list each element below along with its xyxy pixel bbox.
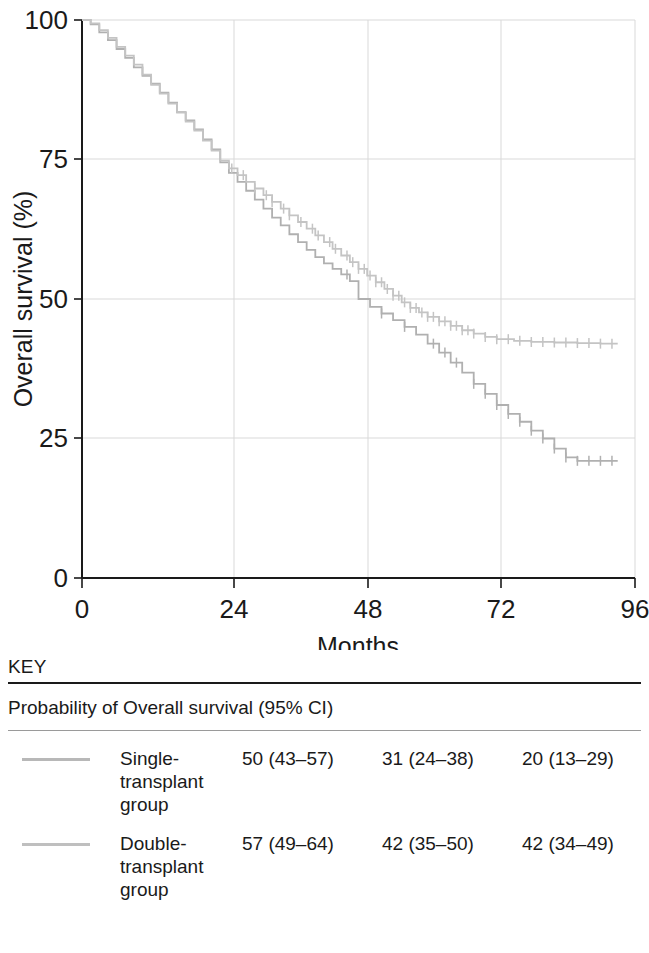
key-value-single-72m: 20 (13–29) (522, 747, 649, 770)
key-value-double-24m: 57 (49–64) (242, 832, 382, 855)
survival-curve-double (82, 20, 618, 344)
survival-curve-single (82, 20, 618, 461)
y-tick-label-25: 25 (39, 423, 68, 453)
x-tick-label-0: 0 (75, 594, 89, 624)
key-row-double-transplant: Double- transplant group 57 (49–64) 42 (… (8, 816, 641, 901)
chart-axes (74, 20, 635, 588)
key-value-single-24m: 50 (43–57) (242, 747, 382, 770)
key-title: KEY (8, 655, 641, 682)
survival-curves (82, 20, 618, 466)
line-swatch-icon-double (22, 843, 90, 846)
key-group-label-single-line2: transplant (120, 770, 242, 793)
y-tick-label-100: 100 (25, 5, 68, 35)
y-tick-label-50: 50 (39, 284, 68, 314)
x-tick-label-72: 72 (487, 594, 516, 624)
survival-chart-figure: 100 75 50 25 0 0 24 48 72 96 Months Over… (0, 0, 649, 650)
key-value-double-48m: 42 (35–50) (382, 832, 522, 855)
key-value-single-48m: 31 (24–38) (382, 747, 522, 770)
x-tick-label-24: 24 (220, 594, 249, 624)
x-tick-label-96: 96 (621, 594, 649, 624)
key-swatch-cell-single (8, 747, 120, 761)
key-group-label-single-line3: group (120, 793, 242, 816)
y-tick-label-75: 75 (39, 144, 68, 174)
key-group-label-single-line1: Single- (120, 747, 242, 770)
key-legend-block: KEY Probability of Overall survival (95%… (8, 655, 641, 901)
key-group-label-double-line2: transplant (120, 855, 242, 878)
x-tick-label-48: 48 (354, 594, 383, 624)
key-group-label-single: Single- transplant group (120, 747, 242, 816)
key-group-label-double-line1: Double- (120, 832, 242, 855)
censor-marks-double (232, 163, 612, 348)
key-swatch-cell-double (8, 832, 120, 846)
key-value-double-72m: 42 (34–49) (522, 832, 649, 855)
key-group-label-double-line3: group (120, 878, 242, 901)
line-swatch-icon-single (22, 758, 90, 761)
y-tick-label-0: 0 (54, 563, 68, 593)
key-group-label-double: Double- transplant group (120, 832, 242, 901)
key-row-single-transplant: Single- transplant group 50 (43–57) 31 (… (8, 731, 641, 816)
y-axis-title: Overall survival (%) (9, 191, 37, 408)
x-axis-title: Months (317, 632, 399, 650)
kaplan-meier-chart: 100 75 50 25 0 0 24 48 72 96 Months Over… (0, 0, 649, 650)
key-subtitle: Probability of Overall survival (95% CI) (8, 684, 641, 730)
